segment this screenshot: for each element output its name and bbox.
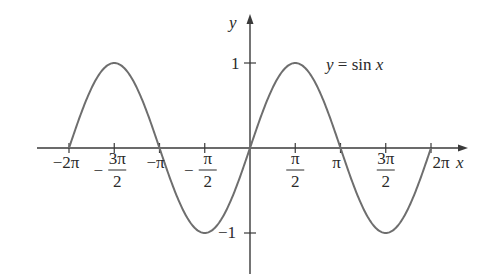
x-tick-label: 3π [109,149,127,168]
y-tick-label-neg1: −1 [218,223,236,242]
x-tick-label: 2 [113,172,122,191]
x-tick-label: − [93,161,103,180]
y-axis-arrow-icon [247,14,254,24]
x-tick-label: π [332,153,341,172]
curve-annotation: y = sin x [324,55,384,74]
x-tick-label: 2 [382,172,391,191]
x-tick-label: −2π [53,153,80,172]
y-axis-label: y [227,13,237,32]
x-axis-arrow-icon [458,145,468,152]
x-tick-label: − [184,161,194,180]
x-tick-label: π [203,149,212,168]
x-tick-label: π [291,149,300,168]
x-tick-label: 2 [203,172,212,191]
y-tick-label-1: 1 [231,54,240,73]
x-axis-label: x [455,153,464,172]
x-tick-label: 3π [377,149,395,168]
x-tick-label: −π [146,153,165,172]
x-tick-label: 2π [432,153,450,172]
x-tick-labels: −2π3π2−−ππ2−π2π3π22π [53,149,450,191]
x-tick-label: 2 [291,172,300,191]
sine-chart: y x y = sin x −2π3π2−−ππ2−π2π3π22π 1 −1 [0,0,493,274]
